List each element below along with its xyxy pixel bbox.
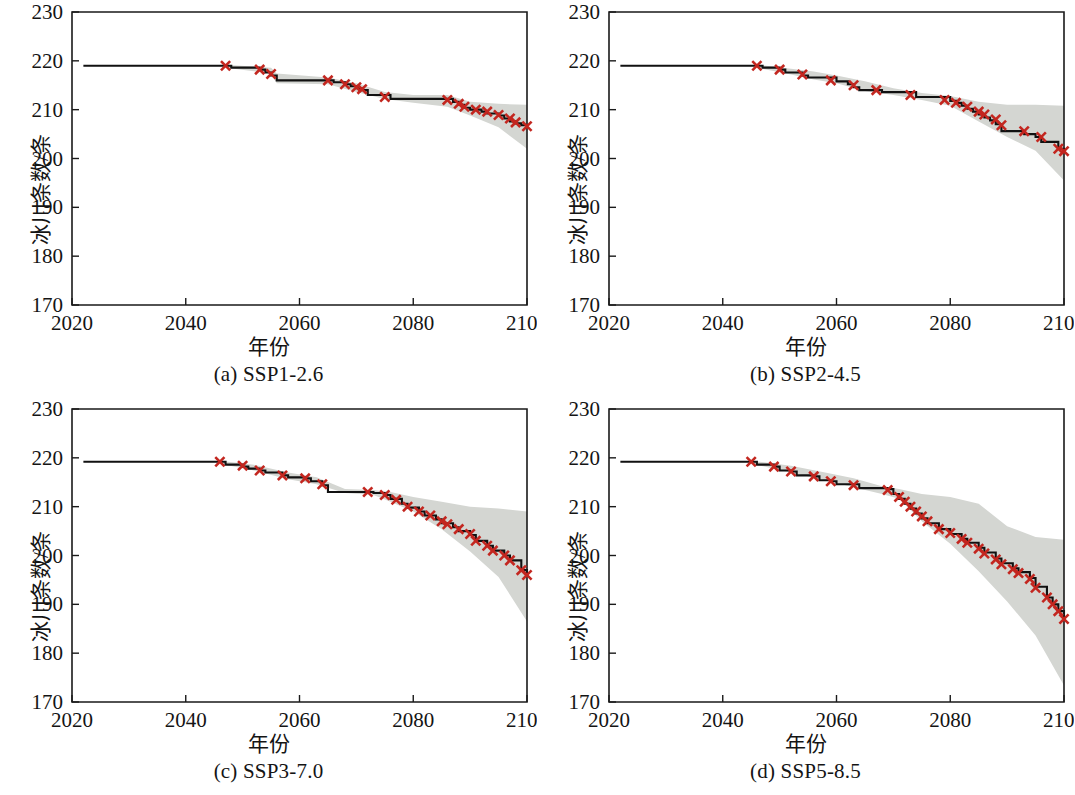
y-tick-label: 210 [569,495,601,519]
x-axis-label-d: 年份 [537,727,1074,757]
x-axis-label-c: 年份 [0,727,537,757]
y-tick-label: 230 [32,0,64,24]
uncertainty-band [757,65,1064,181]
y-tick-label: 210 [32,98,64,122]
y-tick-label: 210 [569,98,601,122]
plot-area-a: 1701801902002102202302020204020602080210… [0,0,537,340]
y-axis-label-c: 冰川条数/条 [24,531,54,642]
y-tick-label: 220 [32,446,64,470]
median-line [83,66,527,127]
y-tick-label: 220 [32,49,64,73]
panel-caption-c: (c) SSP3-7.0 [0,759,537,784]
plot-frame [609,12,1064,305]
y-tick-label: 230 [569,0,601,24]
y-tick-label: 180 [569,244,601,268]
panel-caption-b: (b) SSP2-4.5 [537,362,1074,387]
y-tick-label: 180 [569,641,601,665]
y-tick-label: 220 [569,446,601,470]
y-tick-label: 230 [569,397,601,421]
x-axis-label-a: 年份 [0,330,537,360]
panel-ssp3-70: 1701801902002102202302020204020602080210… [0,397,537,794]
panel-ssp1-26: 1701801902002102202302020204020602080210… [0,0,537,397]
y-axis-label-a: 冰川条数/条 [24,134,54,245]
panel-ssp2-45: 1701801902002102202302020204020602080210… [537,0,1074,397]
x-axis-label-b: 年份 [537,330,1074,360]
plot-frame [72,12,527,305]
panel-caption-d: (d) SSP5-8.5 [537,759,1074,784]
plot-area-b: 1701801902002102202302020204020602080210… [537,0,1074,340]
y-tick-label: 220 [569,49,601,73]
plot-area-c: 1701801902002102202302020204020602080210… [0,397,537,737]
uncertainty-band [226,65,527,149]
plot-frame [72,409,527,702]
y-axis-label-d: 冰川条数/条 [561,531,591,642]
y-tick-label: 230 [32,397,64,421]
y-tick-label: 210 [32,495,64,519]
plot-area-d: 1701801902002102202302020204020602080210… [537,397,1074,737]
y-axis-label-b: 冰川条数/条 [561,134,591,245]
y-tick-label: 180 [32,244,64,268]
y-tick-label: 180 [32,641,64,665]
glacier-count-projection-figure: 1701801902002102202302020204020602080210… [0,0,1075,795]
panel-caption-a: (a) SSP1-2.6 [0,362,537,387]
panel-ssp5-85: 1701801902002102202302020204020602080210… [537,397,1074,794]
